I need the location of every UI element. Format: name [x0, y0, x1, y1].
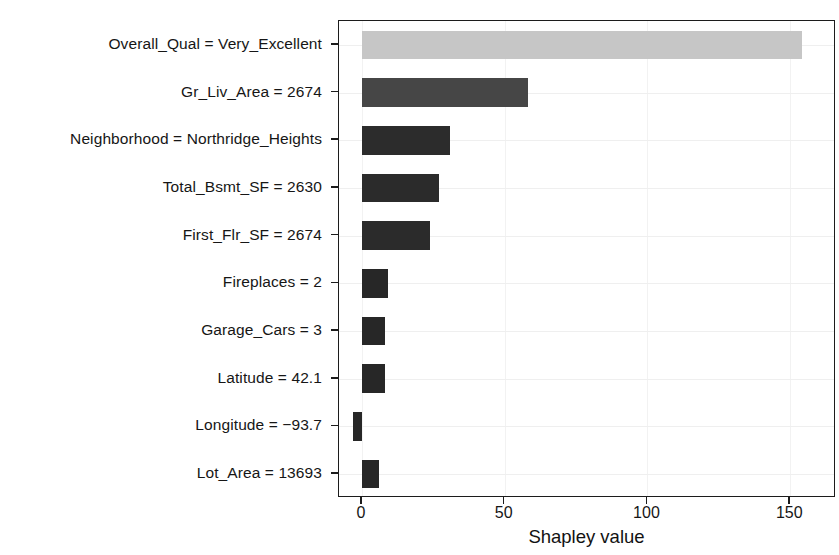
x-axis-tick-label: 0 [356, 505, 365, 521]
shapley-value-bar-chart: Overall_Qual = Very_ExcellentGr_Liv_Area… [0, 0, 839, 555]
y-axis-tick-mark [331, 43, 338, 45]
bar [362, 78, 528, 107]
y-axis-tick-label: Fireplaces = 2 [223, 275, 322, 291]
y-axis-tick-mark [331, 377, 338, 379]
bar [362, 174, 439, 203]
bar [362, 31, 802, 60]
x-axis-tick-label: 50 [495, 505, 513, 521]
y-axis-labels: Overall_Qual = Very_ExcellentGr_Liv_Area… [0, 0, 332, 497]
y-axis-tick-label: First_Flr_SF = 2674 [183, 227, 322, 243]
x-axis-tick-label: 100 [633, 505, 660, 521]
y-axis-tick-label: Garage_Cars = 3 [201, 322, 322, 338]
x-axis-tick-label: 150 [776, 505, 803, 521]
y-gridline [339, 426, 834, 427]
y-axis-tick-mark [331, 138, 338, 140]
y-axis-tick-mark [331, 425, 338, 427]
x-axis-title: Shapley value [338, 528, 835, 547]
y-axis-tick-mark [331, 186, 338, 188]
x-axis-tick-mark [503, 497, 505, 504]
y-gridline [339, 379, 834, 380]
bar [353, 412, 362, 441]
y-axis-tick-label: Total_Bsmt_SF = 2630 [163, 179, 322, 195]
bar [362, 317, 385, 346]
y-gridline [339, 331, 834, 332]
y-axis-tick-label: Overall_Qual = Very_Excellent [108, 36, 322, 52]
plot-area [338, 20, 835, 497]
x-axis-tick-mark [360, 497, 362, 504]
bar [362, 460, 379, 489]
bar [362, 364, 385, 393]
y-gridline [339, 283, 834, 284]
y-axis-tick-label: Gr_Liv_Area = 2674 [181, 84, 322, 100]
y-axis-tick-label: Neighborhood = Northridge_Heights [70, 132, 322, 148]
y-axis-tick-mark [331, 329, 338, 331]
y-axis-tick-label: Lot_Area = 13693 [197, 465, 322, 481]
y-axis-tick-mark [331, 91, 338, 93]
y-gridline [339, 474, 834, 475]
y-axis-tick-mark [331, 282, 338, 284]
bar [362, 269, 388, 298]
y-axis-tick-label: Longitude = −93.7 [195, 418, 322, 434]
x-axis-tick-mark [646, 497, 648, 504]
x-axis-tick-mark [788, 497, 790, 504]
bar [362, 126, 451, 155]
y-axis-tick-mark [331, 472, 338, 474]
bar [362, 221, 431, 250]
y-axis-tick-mark [331, 234, 338, 236]
y-axis-tick-label: Latitude = 42.1 [218, 370, 323, 386]
